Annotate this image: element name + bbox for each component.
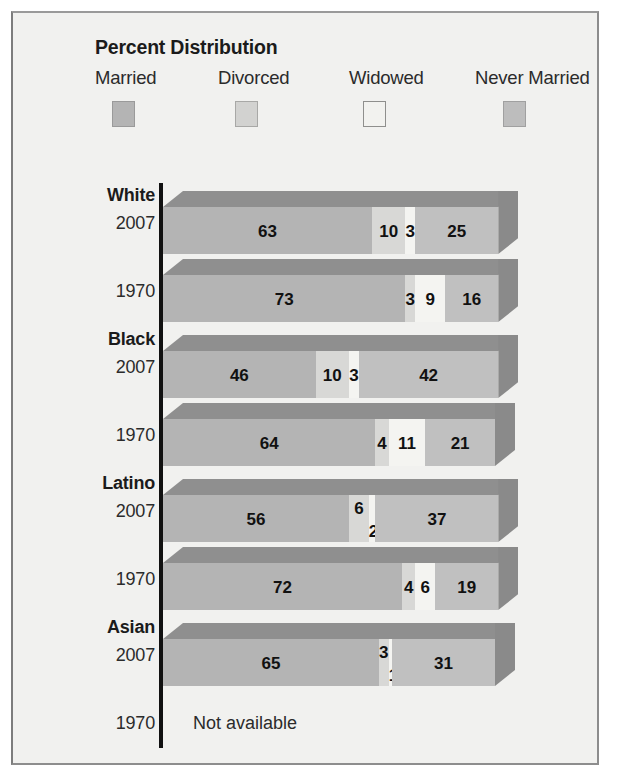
segment-value: 56 [163,511,349,528]
year-label-latino-2007: 2007 [35,501,155,522]
bar-segment-divorced: 3 [405,275,415,322]
bar-segment-divorced: 10 [372,207,405,254]
segment-value: 16 [445,291,498,308]
bar-segment-never-married: 37 [375,495,498,542]
segment-value: 21 [425,435,495,452]
segment-value: 3 [405,291,415,308]
bar-top-face [163,403,515,419]
segment-value: 65 [163,655,379,672]
year-label-black-1970: 1970 [35,425,155,446]
bar-segment-widowed: 3 [405,207,415,254]
bar-segment-never-married: 19 [435,563,498,610]
segment-value: 37 [375,511,498,528]
bar-top-face [163,335,518,351]
bar-segment-divorced: 4 [402,563,415,610]
bar-side-face [498,191,518,254]
bar-segment-married: 64 [163,419,375,466]
segment-value: 19 [435,579,498,596]
bar-segment-widowed: 9 [415,275,445,322]
bar-segment-widowed: 2 [369,495,376,542]
year-label-latino-1970: 1970 [35,569,155,590]
segment-value: 73 [163,291,405,308]
bar-top-face [163,479,518,495]
bar-asian-2007: 653131 [163,639,495,686]
chart-panel: Percent Distribution MarriedDivorcedWido… [11,11,599,765]
bar-white-1970: 733916 [163,275,498,322]
bar-segment-widowed: 3 [349,351,359,398]
segment-value: 6 [415,579,435,596]
segment-value: 11 [389,435,426,452]
segment-value: 4 [402,579,415,596]
bar-side-face [498,335,518,398]
bar-side-face [498,259,518,322]
bar-segment-never-married: 42 [359,351,498,398]
segment-value: 64 [163,435,375,452]
bar-segment-married: 56 [163,495,349,542]
bar-segment-never-married: 21 [425,419,495,466]
year-label-white-1970: 1970 [35,281,155,302]
segment-value: 10 [372,223,405,240]
bar-segment-married: 73 [163,275,405,322]
segment-value: 2 [369,523,376,540]
bar-side-face [498,547,518,610]
bar-segment-never-married: 31 [392,639,495,686]
bar-segment-married: 46 [163,351,316,398]
group-label-latino: Latino [35,473,155,494]
year-label-asian-2007: 2007 [35,645,155,666]
bar-segment-never-married: 16 [445,275,498,322]
bar-latino-1970: 724619 [163,563,498,610]
segment-value: 72 [163,579,402,596]
bar-segment-divorced: 3 [379,639,389,686]
segment-value: 63 [163,223,372,240]
segment-value: 3 [349,367,359,384]
bar-top-face [163,191,518,207]
year-label-asian-1970: 1970 [35,713,155,734]
bar-side-face [495,403,515,466]
segment-value: 46 [163,367,316,384]
segment-value: 9 [415,291,445,308]
bar-segment-divorced: 4 [375,419,388,466]
segment-value: 42 [359,367,498,384]
group-label-white: White [35,185,155,206]
bar-black-1970: 6441121 [163,419,495,466]
segment-value: 25 [415,223,498,240]
bar-segment-widowed: 11 [389,419,426,466]
bar-segment-never-married: 25 [415,207,498,254]
group-label-asian: Asian [35,617,155,638]
stacked-bar-chart: White200763103251970733916Black200746103… [13,13,597,763]
bar-side-face [495,623,515,686]
year-label-white-2007: 2007 [35,213,155,234]
segment-value: 4 [375,435,388,452]
bar-top-face [163,259,518,275]
not-available-note: Not available [193,713,297,734]
bar-top-face [163,547,518,563]
bar-side-face [498,479,518,542]
bar-segment-married: 65 [163,639,379,686]
bar-black-2007: 4610342 [163,351,498,398]
segment-value: 3 [379,644,389,661]
segment-value: 6 [349,500,369,517]
segment-value: 3 [405,223,415,240]
bar-segment-divorced: 6 [349,495,369,542]
group-label-black: Black [35,329,155,350]
bar-segment-divorced: 10 [316,351,349,398]
bar-segment-widowed: 6 [415,563,435,610]
bar-white-2007: 6310325 [163,207,498,254]
bar-segment-married: 72 [163,563,402,610]
bar-top-face [163,623,515,639]
year-label-black-2007: 2007 [35,357,155,378]
segment-value: 10 [316,367,349,384]
bar-latino-2007: 566237 [163,495,498,542]
bar-segment-married: 63 [163,207,372,254]
segment-value: 31 [392,655,495,672]
